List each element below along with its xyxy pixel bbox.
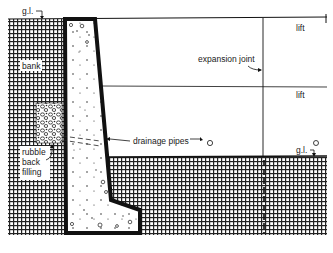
arrow-icon	[110, 139, 130, 141]
ground-level-label-bottom: g.l.	[296, 145, 307, 155]
ground-level-label-top: g.l.	[22, 6, 33, 16]
rubble-back-filling	[36, 103, 62, 143]
pipe-circle-icon	[207, 140, 212, 145]
lift-label-middle: lift	[296, 90, 305, 100]
rubble-label-1: rubble	[22, 147, 46, 157]
retaining-wall-diagram: g.l. bank lift lift expansion joint drai…	[0, 0, 333, 253]
bank-label: bank	[22, 61, 41, 71]
ground-level-line-top	[8, 17, 327, 19]
drainage-pipes-label: drainage pipes	[133, 136, 189, 146]
expansion-joint-label: expansion joint	[198, 54, 255, 64]
rubble-label-2: back	[22, 157, 41, 167]
rubble-label-3: filling	[22, 167, 42, 177]
ground-level-line-bottom	[107, 156, 327, 157]
lift-line	[100, 86, 327, 87]
ground-marker-circle	[314, 141, 319, 146]
lift-label-top: lift	[296, 23, 305, 33]
